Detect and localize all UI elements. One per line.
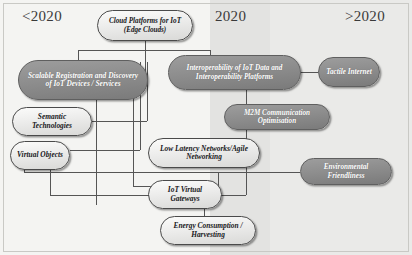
node-scalable-registration[interactable]: Scalable Registration and Discovery of I… bbox=[18, 60, 148, 100]
node-m2m-communication[interactable]: M2M Communication Optimisation bbox=[224, 104, 330, 130]
node-scalable-registration-label: Scalable Registration and Discovery of I… bbox=[25, 72, 141, 89]
node-environmental-friendliness-label: Environmental Friendliness bbox=[307, 163, 385, 179]
era-label-past: <2020 bbox=[22, 8, 62, 25]
node-low-latency-networks[interactable]: Low Latency Networks/Agile Networking bbox=[148, 138, 260, 168]
era-label-now: 2020 bbox=[215, 8, 246, 25]
node-interoperability[interactable]: Interoperability of IoT Data and Interop… bbox=[168, 55, 301, 90]
node-energy-consumption-label: Energy Consumption / Harvesting bbox=[167, 222, 249, 239]
node-m2m-communication-label: M2M Communication Optimisation bbox=[231, 109, 323, 125]
node-semantic-technologies[interactable]: Semantic Technologies bbox=[12, 107, 92, 136]
node-semantic-technologies-label: Semantic Technologies bbox=[19, 113, 85, 130]
node-virtual-objects-label: Virtual Objects bbox=[17, 151, 63, 159]
node-cloud-platforms-label: Cloud Platforms for IoT (Edge Clouds) bbox=[104, 17, 186, 33]
era-label-future: >2020 bbox=[345, 8, 385, 25]
node-tactile-internet-label: Tactile Internet bbox=[325, 68, 373, 76]
node-low-latency-networks-label: Low Latency Networks/Agile Networking bbox=[155, 145, 253, 162]
node-energy-consumption[interactable]: Energy Consumption / Harvesting bbox=[160, 216, 256, 245]
roadmap-diagram: <2020 2020 >2020 Cloud Platforms for IoT… bbox=[0, 0, 412, 255]
node-environmental-friendliness[interactable]: Environmental Friendliness bbox=[300, 158, 392, 185]
node-tactile-internet[interactable]: Tactile Internet bbox=[318, 57, 380, 87]
node-cloud-platforms[interactable]: Cloud Platforms for IoT (Edge Clouds) bbox=[97, 10, 193, 41]
node-interoperability-label: Interoperability of IoT Data and Interop… bbox=[175, 64, 294, 80]
node-iot-virtual-gateways-label: IoT Virtual Gateways bbox=[155, 186, 215, 203]
node-virtual-objects[interactable]: Virtual Objects bbox=[10, 141, 70, 170]
node-iot-virtual-gateways[interactable]: IoT Virtual Gateways bbox=[148, 180, 222, 209]
